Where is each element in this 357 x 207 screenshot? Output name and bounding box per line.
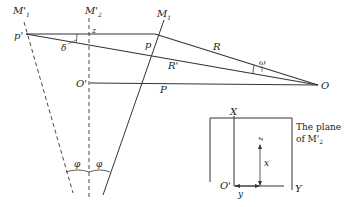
label-m1: M1	[156, 8, 171, 21]
inset-plane-m2: X Y O' x y z The plane of M'2	[210, 106, 341, 199]
inset-label-origin: O'	[220, 180, 231, 191]
label-m2-prime: M'2	[84, 5, 102, 18]
delta-angle-arc	[76, 34, 77, 43]
label-omega: ω	[259, 58, 266, 67]
inset-caption-line2: of M'2	[296, 134, 323, 145]
label-p-cap: P	[159, 84, 167, 95]
line-p	[90, 83, 318, 85]
omega-angle-arc	[253, 65, 254, 74]
ray-r	[155, 34, 318, 85]
arrow-head-down-icon	[258, 181, 262, 186]
arrow-head-up-icon	[258, 144, 262, 149]
inset-caption-line1: The plane	[296, 122, 341, 132]
inset-label-z: z	[257, 136, 265, 141]
inset-label-x: x	[264, 158, 269, 168]
label-o-prime: O'	[76, 78, 87, 89]
label-z: z	[91, 26, 97, 35]
inset-label-y: y	[237, 189, 244, 199]
label-phi-right: φ	[96, 159, 103, 169]
label-delta: δ	[61, 43, 66, 53]
inset-label-x-axis: X	[229, 106, 238, 117]
phi-angle-arc	[66, 170, 110, 172]
label-p-prime: p'	[14, 30, 23, 41]
label-phi-left: φ	[74, 159, 81, 169]
mirror-m1-line	[103, 20, 164, 195]
label-p: p	[145, 39, 152, 50]
optics-diagram: M'1 M'2 M1 p' z p δ R R' ω O O' P φ φ X …	[0, 0, 357, 207]
label-m1-prime: M'1	[12, 5, 30, 18]
inset-label-y-axis: Y	[295, 183, 303, 194]
label-r: R	[212, 41, 221, 52]
label-r-prime: R'	[167, 60, 178, 71]
arrow-head-right-icon	[255, 184, 260, 188]
arrow-head-left-icon	[235, 184, 240, 188]
label-o: O	[321, 80, 329, 91]
